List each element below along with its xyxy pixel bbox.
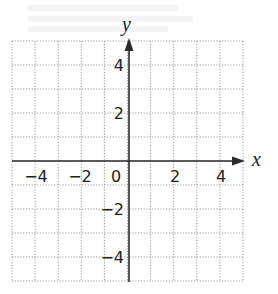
coordinate-plane: x y −4 −2 0 2 4 4 2 −2 −4	[0, 0, 278, 294]
y-tick-label: −4	[100, 248, 124, 267]
y-tick-label: 4	[114, 56, 124, 75]
x-axis-label: x	[251, 148, 261, 170]
y-axis-arrow-icon	[125, 38, 134, 51]
y-tick-label: 2	[114, 104, 124, 123]
y-axis-label: y	[120, 13, 131, 36]
y-tick-label: −2	[100, 200, 124, 219]
x-tick-label: 4	[216, 167, 226, 186]
x-axis-arrow-icon	[232, 157, 245, 166]
x-tick-label: −4	[24, 167, 48, 186]
y-axis	[125, 38, 134, 282]
origin-label: 0	[111, 167, 121, 186]
x-tick-label: 2	[170, 167, 180, 186]
x-tick-label: −2	[68, 167, 92, 186]
